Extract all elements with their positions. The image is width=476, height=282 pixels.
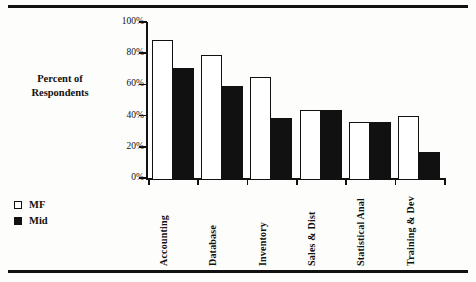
y-axis-title-line2: Respondents <box>14 86 106 100</box>
chart-page: Percent of Respondents 100%80%60%40%20%0… <box>0 0 476 282</box>
x-axis-label-text: Sales & Dist <box>306 211 317 266</box>
bar-mf[interactable] <box>398 116 419 180</box>
x-axis-label-text: Inventory <box>257 222 268 266</box>
x-tick <box>148 178 150 185</box>
legend-label: Mid <box>29 215 48 226</box>
x-tick <box>395 178 397 185</box>
x-tick <box>197 178 199 185</box>
bar-mf[interactable] <box>349 122 370 181</box>
bar-mid[interactable] <box>321 110 342 180</box>
bar-groups <box>148 24 444 180</box>
chart-legend: MFMid <box>14 199 48 231</box>
bar-mf[interactable] <box>300 110 321 180</box>
page-top-cut-text <box>14 0 314 3</box>
y-tick-label: 60% <box>104 79 144 89</box>
bar-group <box>395 24 444 180</box>
bar-mid[interactable] <box>173 68 194 180</box>
y-tick-label: 100% <box>104 17 144 27</box>
bar-group <box>148 24 197 180</box>
plot-area: 100%80%60%40%20%0% <box>112 22 446 182</box>
x-axis-label: Training & Dev <box>395 190 473 268</box>
bar-mid[interactable] <box>271 118 292 180</box>
x-axis-labels: AccountingDatabaseInventorySales & DistS… <box>148 190 448 268</box>
bar-mf[interactable] <box>152 40 173 180</box>
bar-mid[interactable] <box>370 122 391 181</box>
x-tick <box>345 178 347 185</box>
bar-mid[interactable] <box>222 86 243 180</box>
legend-item-mid[interactable]: Mid <box>14 215 48 226</box>
x-tick <box>247 178 249 185</box>
bar-group <box>345 24 394 180</box>
y-tick-label: 80% <box>104 48 144 58</box>
y-tick-label: 20% <box>104 142 144 152</box>
bar-mf[interactable] <box>250 77 271 180</box>
bar-group <box>296 24 345 180</box>
x-axis-label-text: Statistical Anal <box>355 198 366 266</box>
bar-mf[interactable] <box>201 55 222 180</box>
legend-label: MF <box>29 199 45 210</box>
legend-item-mf[interactable]: MF <box>14 199 48 210</box>
x-axis-label-text: Training & Dev <box>405 196 416 266</box>
bar-mid[interactable] <box>419 152 440 180</box>
x-tick <box>296 178 298 185</box>
y-tick-label: 40% <box>104 111 144 121</box>
filled-square-icon <box>14 217 22 225</box>
y-axis-title: Percent of Respondents <box>14 72 106 100</box>
y-axis-title-line1: Percent of <box>14 72 106 86</box>
bar-group <box>197 24 246 180</box>
x-tick <box>444 178 446 185</box>
bar-group <box>247 24 296 180</box>
x-axis-label-text: Database <box>207 225 218 266</box>
bottom-divider-rule <box>8 270 468 273</box>
hollow-square-icon <box>14 201 22 209</box>
top-divider-rule <box>8 5 468 8</box>
x-axis-label-text: Accounting <box>158 215 169 266</box>
y-tick-label: 0% <box>104 173 144 183</box>
